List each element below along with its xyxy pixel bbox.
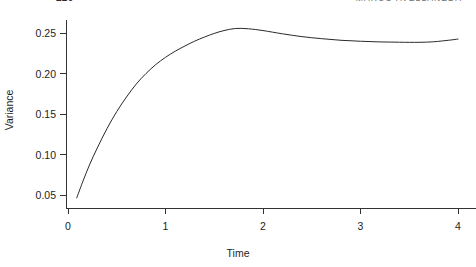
y-axis-title: Variance — [3, 90, 15, 131]
x-axis-title: Time — [227, 247, 250, 259]
y-tick-label: 0.10 — [14, 149, 56, 161]
x-tick-label: 1 — [163, 220, 169, 232]
x-tick-label: 2 — [260, 220, 266, 232]
x-tick-label: 3 — [358, 220, 364, 232]
variance-curve — [77, 28, 458, 198]
y-tick-label: 0.15 — [14, 108, 56, 120]
y-tick-label: 0.20 — [14, 68, 56, 80]
figure-page: 220 MARCO AVELLANEDA 0.050.100.150.200.2… — [0, 0, 476, 267]
x-tick-label: 4 — [455, 220, 461, 232]
y-tick-label: 0.25 — [14, 27, 56, 39]
x-axis-tick-marks — [68, 208, 458, 214]
x-tick-label: 0 — [65, 220, 71, 232]
plot-canvas — [0, 0, 476, 267]
y-axis-tick-marks — [60, 33, 66, 195]
variance-time-line-chart: 0.050.100.150.200.25 01234 Variance Time — [0, 0, 476, 267]
y-tick-label: 0.05 — [14, 189, 56, 201]
